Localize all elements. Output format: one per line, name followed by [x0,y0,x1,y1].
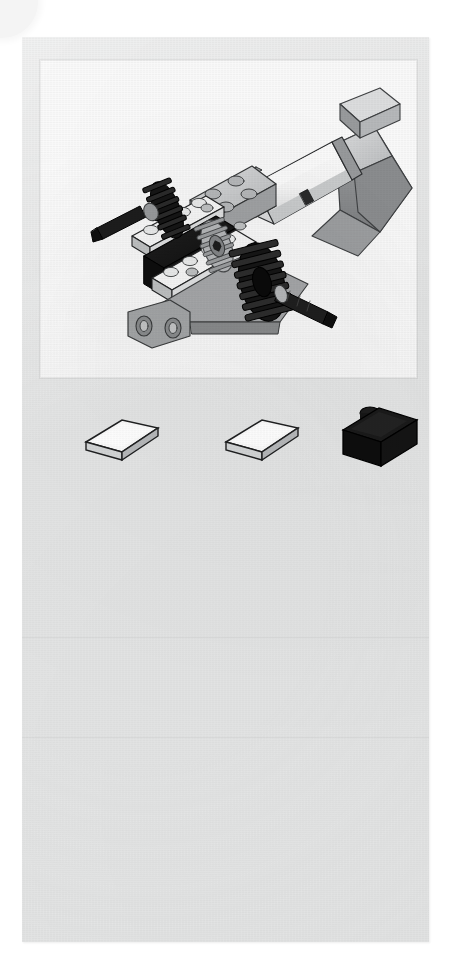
black-brick-2x2-icon [337,402,423,472]
motor-gearbox-assembly-drawing [40,60,417,378]
required-parts-row: 1 x 2 tile 1 x 2 tile [44,402,429,482]
part-white-tile-1x2-a: 1 x 2 tile [82,402,162,482]
part-white-tile-1x2-b: 1 x 2 tile [222,402,302,482]
scan-seam-upper [22,637,429,638]
white-tile-1x2-icon [82,402,162,462]
motor-top-gray-block [340,88,400,138]
page-corner-fold [0,0,38,38]
part-black-brick-2x2: 2 x 2 brick [337,402,423,482]
technic-liftarm-gray [128,300,190,348]
step-illustration-box: Isometric line drawing of a LEGO Technic… [40,60,417,378]
instruction-sheet: Isometric line drawing of a LEGO Technic… [0,0,465,960]
scan-seam-lower [22,737,429,738]
white-tile-1x2-icon [222,402,302,462]
instruction-step-panel: Isometric line drawing of a LEGO Technic… [22,37,429,942]
